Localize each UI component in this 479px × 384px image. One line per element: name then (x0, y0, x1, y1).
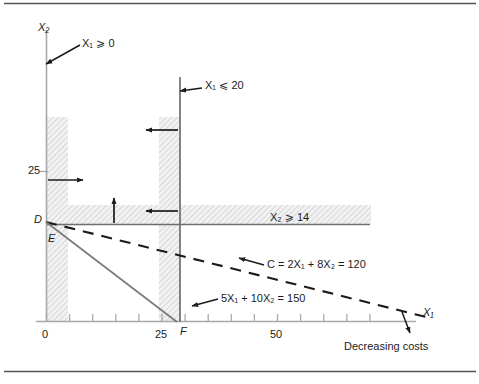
annotation-x2-ge-14: X₂ ⩾ 14 (270, 212, 309, 223)
point-label-d: D (34, 214, 42, 225)
annotation-x1-nonneg: X₁ ⩾ 0 (82, 38, 115, 49)
annotation-constraint-5x1: 5X₁ + 10X₂ = 150 (221, 293, 305, 304)
x-tick-label-50: 50 (270, 328, 282, 340)
lp-graph-figure: X₂ X₁ X₁ ⩾ 0 X₁ ⩽ 20 X₂ ⩾ 14 C = 2X₁ + 8… (0, 0, 479, 384)
x-tick-label-25: 25 (155, 328, 167, 340)
point-label-f: F (180, 326, 187, 337)
leader-constraint-5x1 (192, 299, 218, 306)
x-axis-label: X₁ (423, 307, 434, 318)
leader-x1-le-20 (180, 88, 202, 91)
leader-x1-nonneg (46, 45, 80, 64)
leader-objective (239, 258, 264, 265)
leader-decreasing-costs (402, 312, 410, 333)
y-tick-label-25: 25 (28, 164, 40, 176)
annotation-x1-le-20: X₁ ⩽ 20 (205, 80, 244, 91)
point-label-e: E (48, 233, 55, 244)
lp-graph-canvas (0, 0, 479, 384)
x-tick-label-0: 0 (42, 328, 48, 340)
hatch-band-x2-ge-14 (47, 205, 371, 224)
annotation-objective: C = 2X₁ + 8X₂ = 120 (267, 259, 366, 270)
y-axis-label: X₂ (38, 22, 50, 33)
annotation-decreasing-costs: Decreasing costs (344, 341, 428, 352)
